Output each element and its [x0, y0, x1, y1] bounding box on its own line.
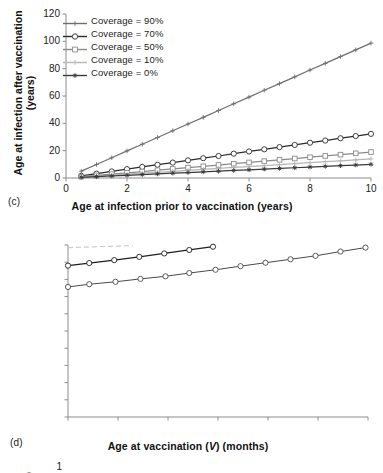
x-tick-label: 2 — [112, 183, 142, 194]
x-tick-label: 6 — [234, 183, 264, 194]
x-tick-label: 8 — [295, 183, 325, 194]
y-tick-label: 120 — [22, 8, 60, 19]
legend-marker-icon — [62, 15, 88, 26]
panel-d-x-axis-label-var: V — [209, 440, 216, 452]
series-line — [65, 244, 215, 268]
chart-d-canvas — [0, 222, 383, 473]
legend-item[interactable]: Coverage = 50% — [62, 40, 163, 53]
panel-d-x-axis-label-pre: Age at vaccination ( — [108, 440, 209, 452]
legend-marker-icon — [62, 41, 88, 52]
series-line — [65, 245, 368, 290]
x-tick-label: 0 — [51, 183, 81, 194]
y-tick-label: 100 — [22, 35, 60, 46]
panel-c-legend: Coverage = 90%Coverage = 70%Coverage = 5… — [62, 14, 163, 79]
panel-d-x-axis-label: Age at vaccination (V) (months) — [18, 440, 358, 452]
legend-item-label: Coverage = 50% — [91, 41, 163, 52]
series-line — [68, 246, 133, 248]
x-tick-label: 4 — [173, 183, 203, 194]
legend-item-label: Coverage = 90% — [91, 15, 163, 26]
legend-item[interactable]: Coverage = 10% — [62, 53, 163, 66]
y-tick-label: 40 — [22, 117, 60, 128]
legend-marker-icon — [62, 54, 88, 65]
y-tick-label: 1 — [24, 461, 62, 472]
legend-item-label: Coverage = 70% — [91, 28, 163, 39]
legend-marker-icon — [62, 28, 88, 39]
legend-marker-icon — [62, 67, 88, 78]
y-tick-label: 0 — [22, 172, 60, 183]
legend-item[interactable]: Coverage = 0% — [62, 66, 163, 79]
legend-item-label: Coverage = 0% — [91, 67, 158, 78]
panel-c-x-axis-label: Age at infection prior to vaccination (y… — [12, 200, 352, 212]
panel-c: (c) Age at infection after vaccination (… — [0, 0, 383, 222]
panel-d: (d) Eradication fraction (Ph) Age at vac… — [0, 222, 383, 473]
legend-item[interactable]: Coverage = 70% — [62, 27, 163, 40]
y-tick-label: 80 — [22, 63, 60, 74]
x-tick-label: 10 — [356, 183, 383, 194]
legend-item[interactable]: Coverage = 90% — [62, 14, 163, 27]
legend-item-label: Coverage = 10% — [91, 54, 163, 65]
y-tick-label: 20 — [22, 145, 60, 156]
panel-d-x-axis-label-post: ) (months) — [216, 440, 268, 452]
y-tick-label: 60 — [22, 90, 60, 101]
